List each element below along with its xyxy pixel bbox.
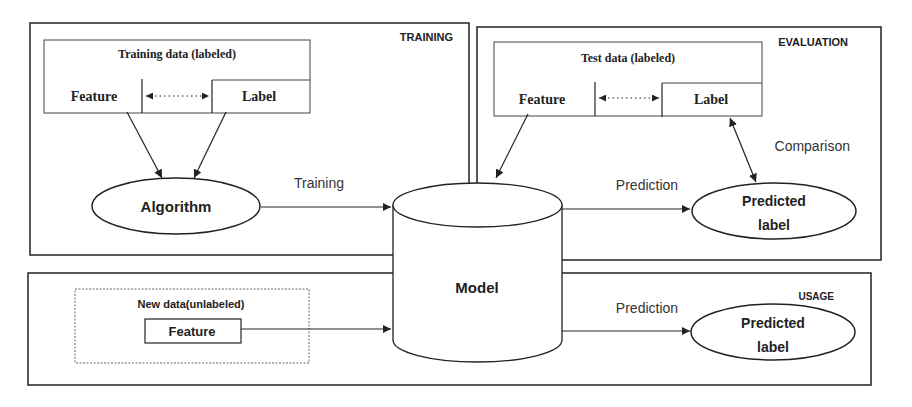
test-label: Label xyxy=(694,92,728,107)
training-title: TRAINING xyxy=(400,31,453,43)
training-edge-label: Training xyxy=(294,175,344,191)
usage-predicted-line1: Predicted xyxy=(741,315,805,331)
usage-feature: Feature xyxy=(169,324,216,339)
usage-prediction-edge-label: Prediction xyxy=(616,300,678,316)
comparison-arrow xyxy=(730,118,756,182)
test-data-box: Test data (labeled) Feature Label xyxy=(494,42,762,117)
test-data-title: Test data (labeled) xyxy=(581,51,675,65)
model-label: Model xyxy=(455,279,498,296)
training-label: Label xyxy=(242,89,276,104)
eval-prediction-edge-label: Prediction xyxy=(616,177,678,193)
usage-predicted-line2: label xyxy=(757,339,789,355)
algorithm-label: Algorithm xyxy=(141,198,212,215)
new-data-box: New data(unlabeled) Feature xyxy=(75,289,309,363)
training-data-title: Training data (labeled) xyxy=(118,47,236,61)
training-feature: Feature xyxy=(71,89,117,104)
model-cylinder-top xyxy=(393,183,562,227)
training-data-box: Training data (labeled) Feature Label xyxy=(44,40,310,113)
test-feature-to-model-arrow xyxy=(496,114,528,178)
new-data-title: New data(unlabeled) xyxy=(138,298,245,310)
evaluation-title: EVALUATION xyxy=(778,36,848,48)
label-to-algorithm-arrow xyxy=(194,112,226,178)
eval-predicted-line1: Predicted xyxy=(742,193,806,209)
eval-predicted-line2: label xyxy=(758,217,790,233)
test-feature: Feature xyxy=(519,92,565,107)
comparison-label: Comparison xyxy=(775,138,850,154)
usage-title: USAGE xyxy=(798,291,834,302)
ml-workflow-diagram: TRAINING Training data (labeled) Feature… xyxy=(0,0,912,407)
model-node: Model xyxy=(393,183,562,362)
feature-to-algorithm-arrow xyxy=(127,112,162,178)
